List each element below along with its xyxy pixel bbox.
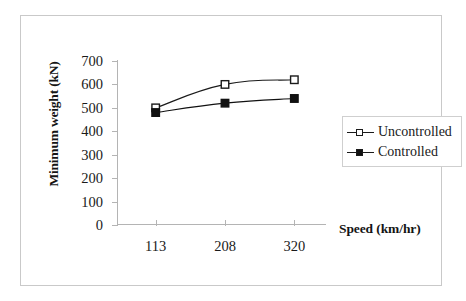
- y-axis-tick-mark: [112, 84, 118, 85]
- plot-area: [117, 61, 325, 225]
- open-square-marker-icon: [347, 127, 374, 138]
- y-axis-tick-label: 500: [65, 101, 103, 116]
- data-point-marker: [291, 76, 299, 84]
- data-point-marker: [152, 109, 160, 117]
- y-axis-tick-mark: [112, 61, 118, 62]
- y-axis-tick-label: 100: [65, 194, 103, 209]
- legend-item-label: Uncontrolled: [378, 125, 452, 139]
- x-axis-tick-label: 113: [145, 238, 166, 255]
- x-axis-tick-label: 320: [283, 238, 305, 255]
- chart-frame: Minimum weight (kN) 01002003004005006007…: [20, 15, 442, 286]
- y-axis-tick-mark: [112, 131, 118, 132]
- y-axis-tick-labels: 0100200300400500600700: [65, 54, 103, 234]
- y-axis-tick-label: 600: [65, 77, 103, 92]
- y-axis-title-label: Minimum weight (kN): [46, 61, 62, 186]
- x-axis-tick-labels: 113208320: [71, 238, 391, 260]
- y-axis-tick-mark: [112, 178, 118, 179]
- x-axis-tick-label: 208: [214, 238, 236, 255]
- y-axis-tick-mark: [112, 108, 118, 109]
- filled-square-marker-icon: [347, 147, 374, 158]
- y-axis-tick-mark: [112, 225, 118, 226]
- x-axis-tick-mark: [225, 220, 226, 226]
- chart-legend: UncontrolledControlled: [342, 116, 462, 167]
- series-plot: [109, 53, 335, 235]
- x-axis-tick-mark: [294, 220, 295, 226]
- x-axis-title: Speed (km/hr): [339, 221, 421, 237]
- data-point-marker: [291, 95, 299, 103]
- y-axis-tick-mark: [112, 155, 118, 156]
- y-axis-tick-label: 0: [65, 218, 103, 233]
- legend-item[interactable]: Controlled: [347, 142, 461, 162]
- data-point-marker: [221, 99, 229, 107]
- y-axis-tick-mark: [112, 202, 118, 203]
- data-point-marker: [221, 81, 229, 89]
- legend-item[interactable]: Uncontrolled: [347, 122, 461, 142]
- y-axis-tick-label: 700: [65, 54, 103, 69]
- x-axis-tick-mark: [156, 220, 157, 226]
- legend-item-label: Controlled: [378, 145, 438, 159]
- y-axis-tick-label: 200: [65, 171, 103, 186]
- y-axis-tick-label: 400: [65, 124, 103, 139]
- y-axis-tick-label: 300: [65, 147, 103, 162]
- y-axis-title: Minimum weight (kN): [43, 34, 65, 214]
